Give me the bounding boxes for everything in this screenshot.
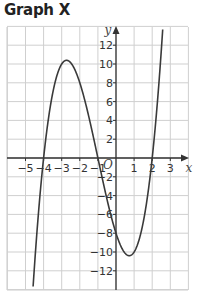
svg-text:−2: −2: [72, 162, 88, 175]
svg-text:O: O: [103, 158, 113, 172]
svg-text:12: 12: [99, 39, 113, 52]
svg-text:y: y: [104, 23, 112, 37]
svg-text:−2: −2: [97, 171, 113, 184]
svg-text:1: 1: [131, 162, 138, 175]
svg-text:−10: −10: [90, 246, 113, 259]
svg-text:−8: −8: [97, 227, 113, 240]
svg-text:x: x: [186, 161, 193, 175]
svg-text:6: 6: [106, 96, 113, 109]
svg-text:4: 4: [106, 114, 113, 127]
svg-text:−12: −12: [90, 265, 113, 278]
cubic-graph: −5−4−3−2−1123−12−10−8−6−4−224681012xyO: [0, 0, 200, 301]
svg-text:3: 3: [167, 162, 174, 175]
svg-text:−5: −5: [17, 162, 33, 175]
svg-text:10: 10: [99, 58, 113, 71]
svg-text:2: 2: [106, 133, 113, 146]
svg-text:8: 8: [106, 77, 113, 90]
svg-text:−3: −3: [54, 162, 70, 175]
